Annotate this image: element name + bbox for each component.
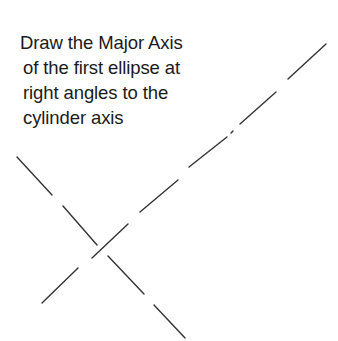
major-axis-segment (108, 256, 144, 294)
cylinder-axis-segment (240, 92, 276, 124)
cylinder-axis-line (42, 44, 326, 303)
major-axis-segment (154, 305, 185, 338)
cylinder-axis-segment (42, 268, 78, 303)
cylinder-axis-segment (231, 131, 233, 133)
cylinder-axis-segment (140, 180, 178, 212)
cylinder-axis-segment (92, 224, 128, 258)
cylinder-axis-segment (288, 44, 326, 79)
major-axis-segment (63, 206, 97, 245)
construction-drawing (0, 0, 338, 341)
major-axis-segment (17, 157, 52, 195)
cylinder-axis-segment (189, 137, 227, 167)
major-axis-line (17, 157, 185, 338)
